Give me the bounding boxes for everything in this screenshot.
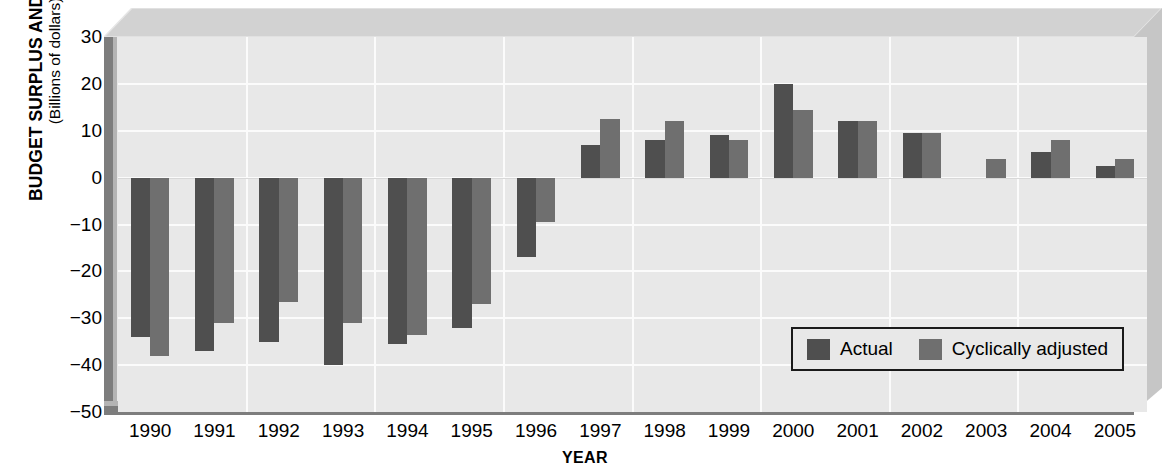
bar-2004-actual — [1031, 152, 1050, 178]
gridline-vertical — [503, 37, 505, 412]
bar-1995-actual — [452, 178, 471, 328]
x-axis-tick-label-2002: 2002 — [901, 420, 943, 442]
bar-1993-cyclically-adjusted — [343, 178, 362, 323]
x-axis-tick-label-1991: 1991 — [193, 420, 235, 442]
x-axis-tick-label-1997: 1997 — [579, 420, 621, 442]
bar-2005-actual — [1096, 166, 1115, 178]
x-axis-tick-label-1994: 1994 — [386, 420, 428, 442]
x-axis-tick-label-2003: 2003 — [965, 420, 1007, 442]
bar-2002-actual — [903, 133, 922, 178]
x-axis-tick-label-1996: 1996 — [515, 420, 557, 442]
bar-2001-cyclically-adjusted — [858, 121, 877, 177]
legend-swatch-actual — [807, 339, 830, 360]
bar-1996-cyclically-adjusted — [536, 178, 555, 223]
x-axis-tick-label-1995: 1995 — [451, 420, 493, 442]
legend-label-actual: Actual — [840, 338, 893, 360]
bar-1996-actual — [517, 178, 536, 258]
bar-1990-actual — [131, 178, 150, 337]
gridline-vertical — [632, 37, 634, 412]
bar-2002-cyclically-adjusted — [922, 133, 941, 178]
legend-item-actual: Actual — [807, 338, 893, 360]
x-axis-tick-labels: 1990199119921993199419951996199719981999… — [118, 420, 1147, 446]
y-axis-tick-label: −20 — [42, 260, 102, 282]
bar-1990-cyclically-adjusted — [150, 178, 169, 356]
y-axis-tick-labels: 3020100−10−20−30−40−50 — [42, 0, 102, 474]
legend-item-cyclically-adjusted: Cyclically adjusted — [919, 338, 1108, 360]
bar-2000-actual — [774, 84, 793, 178]
bar-2001-actual — [838, 121, 857, 177]
bar-1994-actual — [388, 178, 407, 344]
bar-1999-actual — [710, 135, 729, 177]
bar-1997-actual — [581, 145, 600, 178]
bar-1998-cyclically-adjusted — [665, 121, 684, 177]
budget-surplus-deficit-chart: BUDGET SURPLUS AND DEFICIT (Billions of … — [0, 0, 1170, 474]
bar-1991-actual — [195, 178, 214, 351]
x-axis-tick-label-1993: 1993 — [322, 420, 364, 442]
x-axis-tick-label-1998: 1998 — [644, 420, 686, 442]
gridline-vertical — [760, 37, 762, 412]
chart-legend: Actual Cyclically adjusted — [791, 327, 1124, 371]
bar-1992-cyclically-adjusted — [279, 178, 298, 302]
y-axis-tick-label: 0 — [42, 167, 102, 189]
bar-1998-actual — [645, 140, 664, 178]
y-axis-tick-label: 20 — [42, 73, 102, 95]
bar-1992-actual — [259, 178, 278, 342]
y-axis-tick-label: 10 — [42, 120, 102, 142]
y-axis-tick-label: −50 — [42, 401, 102, 423]
gridline-vertical — [374, 37, 376, 412]
x-axis-title: YEAR — [0, 449, 1170, 467]
bar-2003-cyclically-adjusted — [986, 159, 1005, 178]
x-axis-tick-label-2004: 2004 — [1029, 420, 1071, 442]
x-axis-tick-label-2005: 2005 — [1094, 420, 1136, 442]
y-axis-tick-label: −30 — [42, 307, 102, 329]
gridline-vertical — [246, 37, 248, 412]
legend-label-cyclically-adjusted: Cyclically adjusted — [952, 338, 1108, 360]
bar-1995-cyclically-adjusted — [472, 178, 491, 305]
bar-2005-cyclically-adjusted — [1115, 159, 1134, 178]
bar-2000-cyclically-adjusted — [793, 110, 812, 178]
y-axis-tick-label: 30 — [42, 26, 102, 48]
x-axis-tick-label-2000: 2000 — [772, 420, 814, 442]
bar-1993-actual — [324, 178, 343, 366]
y-axis-tick-label: −40 — [42, 354, 102, 376]
y-axis-tick-label: −10 — [42, 214, 102, 236]
x-axis-tick-label-1990: 1990 — [129, 420, 171, 442]
legend-swatch-cyclically-adjusted — [919, 339, 942, 360]
x-axis-tick-label-1992: 1992 — [258, 420, 300, 442]
bar-2004-cyclically-adjusted — [1051, 140, 1070, 178]
bar-1999-cyclically-adjusted — [729, 140, 748, 178]
bar-1994-cyclically-adjusted — [407, 178, 426, 335]
x-axis-tick-label-2001: 2001 — [836, 420, 878, 442]
bar-1997-cyclically-adjusted — [600, 119, 619, 178]
bar-1991-cyclically-adjusted — [214, 178, 233, 323]
x-axis-tick-label-1999: 1999 — [708, 420, 750, 442]
